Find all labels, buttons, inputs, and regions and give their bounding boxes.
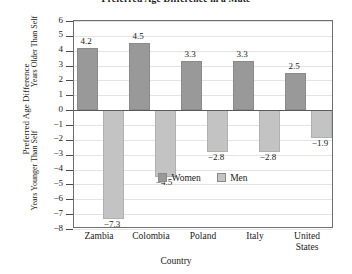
gridline	[74, 21, 332, 22]
y-axis-tick	[66, 51, 73, 52]
y-axis-tick-label: −2	[37, 134, 63, 143]
y-axis-tick-label: −3	[37, 149, 63, 158]
bar-men-colombia[interactable]	[155, 110, 176, 177]
bar-value-label: −2.8	[199, 152, 234, 162]
bar-men-united-states[interactable]	[311, 110, 332, 138]
y-axis-tick-label: 2	[37, 75, 63, 84]
legend: Women Men	[74, 173, 332, 183]
zero-baseline	[74, 110, 332, 111]
gridline	[74, 229, 332, 230]
y-axis-tick	[66, 66, 73, 67]
bar-women-zambia[interactable]	[77, 48, 98, 110]
y-axis-tick-label: 6	[37, 16, 63, 25]
y-axis-tick	[66, 199, 73, 200]
x-axis-tick-label-zambia: Zambia	[69, 231, 129, 242]
y-axis-tick	[66, 155, 73, 156]
bar-men-poland[interactable]	[207, 110, 228, 152]
y-axis-tick-label: 5	[37, 30, 63, 39]
legend-swatch-women-icon	[158, 173, 167, 182]
legend-swatch-men-icon	[217, 173, 226, 182]
bar-value-label: 4.5	[121, 31, 156, 41]
y-axis-tick-label: −7	[37, 209, 63, 218]
y-axis-tick	[66, 214, 73, 215]
legend-label-women: Women	[171, 173, 200, 183]
bar-women-colombia[interactable]	[129, 43, 150, 110]
y-axis-tick	[66, 21, 73, 22]
y-axis-tick-label: −1	[37, 120, 63, 129]
bar-women-italy[interactable]	[233, 61, 254, 110]
y-axis-tick	[66, 170, 73, 171]
gridline	[74, 36, 332, 37]
bar-value-label: 4.2	[69, 36, 104, 46]
legend-label-men: Men	[230, 173, 247, 183]
bar-women-united-states[interactable]	[285, 73, 306, 110]
bar-value-label: −1.9	[303, 138, 338, 148]
bar-value-label: 2.5	[277, 61, 312, 71]
bar-value-label: 3.3	[173, 49, 208, 59]
x-axis-tick-label-line: Colombia	[121, 231, 181, 242]
x-axis-tick-label-line: Poland	[173, 231, 233, 242]
y-axis-tick	[66, 80, 73, 81]
x-axis-tick-label-line: United	[277, 231, 337, 242]
y-axis-tick	[66, 229, 73, 230]
chart-container: Preferred Age Difference in a Mate Prefe…	[0, 0, 352, 274]
y-axis-tick-label: 3	[37, 60, 63, 69]
bar-men-italy[interactable]	[259, 110, 280, 152]
bar-value-label: −2.8	[251, 152, 286, 162]
y-axis-tick	[66, 110, 73, 111]
x-axis-tick-label-line: States	[277, 242, 337, 253]
bar-value-label: −7.3	[95, 219, 130, 229]
y-axis-tick-label: −5	[37, 179, 63, 188]
x-axis-tick-label-united-states: UnitedStates	[277, 231, 337, 252]
x-axis-tick-label-italy: Italy	[225, 231, 285, 242]
y-axis-tick	[66, 184, 73, 185]
y-axis-tick	[66, 140, 73, 141]
bar-women-poland[interactable]	[181, 61, 202, 110]
y-axis-tick	[66, 125, 73, 126]
legend-item-women[interactable]: Women	[158, 173, 200, 183]
bar-value-label: 3.3	[225, 49, 260, 59]
x-axis-title: Country	[0, 256, 352, 266]
x-axis-tick-label-line: Italy	[225, 231, 285, 242]
y-axis-tick	[66, 95, 73, 96]
chart-title: Preferred Age Difference in a Mate	[0, 0, 352, 4]
x-axis-tick-label-poland: Poland	[173, 231, 233, 242]
y-axis-tick-label: −6	[37, 194, 63, 203]
x-axis-tick-label-colombia: Colombia	[121, 231, 181, 242]
y-axis-tick-label: 0	[37, 105, 63, 114]
y-axis-tick-label: 4	[37, 45, 63, 54]
y-axis-tick-label: 1	[37, 90, 63, 99]
legend-item-men[interactable]: Men	[217, 173, 247, 183]
y-axis-tick-label: −8	[37, 224, 63, 233]
y-axis-tick-label: −4	[37, 164, 63, 173]
x-axis-tick-label-line: Zambia	[69, 231, 129, 242]
bar-men-zambia[interactable]	[103, 110, 124, 218]
